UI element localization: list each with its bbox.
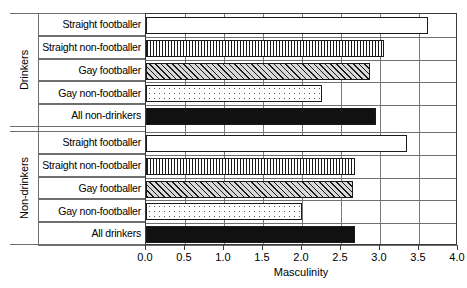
bar bbox=[146, 17, 428, 34]
bar bbox=[146, 85, 322, 102]
category-label: All non-drinkers bbox=[39, 104, 146, 127]
group-label: Non-drinkers bbox=[18, 157, 30, 219]
row-separator bbox=[146, 82, 456, 83]
category-label: Straight footballer bbox=[39, 131, 146, 154]
row-separator bbox=[146, 223, 456, 224]
x-tick bbox=[340, 245, 341, 250]
bar bbox=[146, 181, 353, 198]
x-axis-line bbox=[38, 245, 457, 246]
x-tick bbox=[262, 245, 263, 250]
x-tick-label: 3.0 bbox=[359, 251, 399, 263]
bar bbox=[146, 158, 355, 175]
x-tick bbox=[379, 245, 380, 250]
x-tick-label: 1.5 bbox=[242, 251, 282, 263]
row-separator bbox=[146, 60, 456, 61]
category-label: Gay footballer bbox=[39, 59, 146, 82]
x-tick bbox=[457, 245, 458, 250]
x-tick-label: 2.5 bbox=[320, 251, 360, 263]
row-separator bbox=[146, 105, 456, 106]
x-axis: 0.00.51.01.52.02.53.03.54.0 bbox=[145, 245, 457, 253]
row-separator bbox=[146, 178, 456, 179]
category-label: Straight footballer bbox=[39, 13, 146, 36]
masculinity-bar-chart: DrinkersNon-drinkers Straight footballer… bbox=[0, 0, 467, 288]
plot-area bbox=[145, 13, 457, 245]
x-tick-label: 3.5 bbox=[398, 251, 438, 263]
gridline bbox=[419, 14, 420, 244]
group-bracket: Drinkers bbox=[10, 13, 38, 127]
bar bbox=[146, 40, 384, 57]
category-label: Gay non-footballer bbox=[39, 199, 146, 222]
category-label: Gay non-footballer bbox=[39, 81, 146, 104]
bar bbox=[146, 63, 370, 80]
bar bbox=[146, 203, 302, 220]
x-tick bbox=[418, 245, 419, 250]
x-tick bbox=[184, 245, 185, 250]
bar bbox=[146, 135, 407, 152]
x-tick-label: 2.0 bbox=[281, 251, 321, 263]
category-label: Gay footballer bbox=[39, 177, 146, 200]
x-tick-label: 0.0 bbox=[125, 251, 165, 263]
row-separator bbox=[146, 132, 456, 133]
x-tick-label: 4.0 bbox=[437, 251, 467, 263]
x-tick-label: 0.5 bbox=[164, 251, 204, 263]
bar bbox=[146, 226, 355, 243]
x-tick bbox=[223, 245, 224, 250]
group-axis: DrinkersNon-drinkers bbox=[10, 13, 38, 245]
group-bracket: Non-drinkers bbox=[10, 131, 38, 245]
category-label: Straight non-footballer bbox=[39, 154, 146, 177]
category-label: All drinkers bbox=[39, 222, 146, 245]
row-separator bbox=[146, 37, 456, 38]
category-label: Straight non-footballer bbox=[39, 36, 146, 59]
bar bbox=[146, 108, 376, 125]
x-tick-label: 1.0 bbox=[203, 251, 243, 263]
category-label-column: Straight footballerStraight non-football… bbox=[38, 13, 145, 245]
x-axis-label: Masculinity bbox=[145, 266, 457, 278]
row-separator bbox=[146, 155, 456, 156]
group-label: Drinkers bbox=[18, 50, 30, 90]
x-tick bbox=[145, 245, 146, 250]
row-separator bbox=[146, 200, 456, 201]
x-tick bbox=[301, 245, 302, 250]
